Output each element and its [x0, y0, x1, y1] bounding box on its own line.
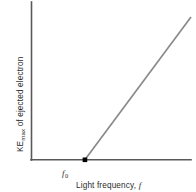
y-axis-label-suffix: of ejected electron: [16, 56, 25, 128]
y-axis-label-prefix: KE: [16, 140, 25, 152]
x-tick-label-f0-sub: 0: [65, 172, 68, 179]
x-axis-label: Light frequency,f: [76, 180, 143, 190]
y-axis-label: KEmax of ejected electron: [16, 56, 26, 152]
photoelectric-effect-chart: f0 Light frequency,f KEmax of ejected el…: [0, 0, 196, 192]
chart-canvas: f0 Light frequency,f KEmax of ejected el…: [0, 0, 196, 192]
x-axis-label-main: Light frequency,: [76, 181, 136, 190]
threshold-point-marker: [83, 158, 88, 163]
data-series-line: [85, 17, 191, 160]
x-tick-label-f0: f0: [62, 168, 68, 179]
y-axis-label-subscript: max: [19, 129, 26, 141]
x-axis-label-variable: f: [139, 180, 143, 190]
